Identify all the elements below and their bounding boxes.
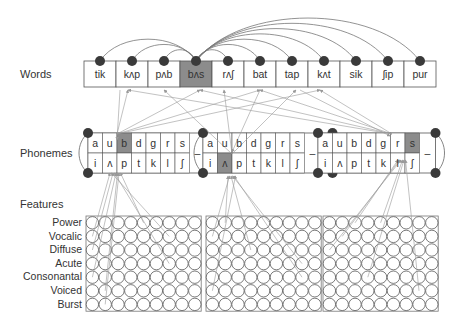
word-1: kʌp <box>116 68 148 80</box>
feature-unit <box>336 285 348 297</box>
feature-unit <box>245 285 257 297</box>
feature-unit <box>362 298 374 310</box>
phoneme-0-bottom-2: p <box>117 157 132 169</box>
feature-unit <box>323 285 335 297</box>
phoneme-2-top-5: r <box>391 137 406 149</box>
feature-unit <box>426 230 438 242</box>
feature-unit <box>137 244 149 256</box>
phoneme-1-bottom-1: ʌ <box>218 157 233 169</box>
word-node <box>223 56 233 66</box>
phoneme-1-bottom-5: l <box>276 157 291 169</box>
feature-unit <box>426 244 438 256</box>
feature-unit <box>336 271 348 283</box>
feature-unit <box>189 257 201 269</box>
feature-unit <box>163 271 175 283</box>
feature-unit <box>323 298 335 310</box>
feature-unit <box>189 217 201 229</box>
feature-unit <box>176 244 188 256</box>
feature-unit <box>387 217 399 229</box>
word-phoneme-link <box>260 90 392 134</box>
word-8: sik <box>340 68 372 80</box>
feature-unit <box>176 298 188 310</box>
word-6: tap <box>276 68 308 80</box>
word-node <box>127 56 137 66</box>
feature-unit <box>163 285 175 297</box>
feature-unit <box>245 271 257 283</box>
feature-unit <box>176 217 188 229</box>
phoneme-1-top-6: s <box>290 137 305 149</box>
feature-unit <box>112 285 124 297</box>
phoneme-node <box>431 168 441 178</box>
feature-unit <box>257 257 269 269</box>
feature-unit <box>112 244 124 256</box>
feature-unit <box>362 244 374 256</box>
phoneme-1-bottom-4: k <box>261 157 276 169</box>
feature-unit <box>257 230 269 242</box>
phoneme-separator: – <box>420 147 436 159</box>
feature-unit <box>336 257 348 269</box>
feature-unit <box>349 244 361 256</box>
feature-unit <box>219 271 231 283</box>
feature-unit <box>112 271 124 283</box>
feature-unit <box>309 217 321 229</box>
feature-unit <box>400 271 412 283</box>
word-node <box>95 56 105 66</box>
feature-unit <box>189 230 201 242</box>
feature-unit <box>270 217 282 229</box>
phoneme-1-top-2: b <box>232 137 247 149</box>
feature-unit <box>323 244 335 256</box>
word-4: rʌʃ <box>212 68 244 80</box>
word-arc <box>196 18 420 61</box>
phoneme-2-bottom-6: ʃ <box>405 157 420 169</box>
feature-unit <box>413 257 425 269</box>
feature-unit <box>296 244 308 256</box>
feature-unit <box>270 271 282 283</box>
phoneme-1-top-3: d <box>247 137 262 149</box>
feature-unit <box>176 271 188 283</box>
word-node <box>415 56 425 66</box>
feature-unit <box>323 257 335 269</box>
feature-unit <box>270 257 282 269</box>
feature-unit <box>163 298 175 310</box>
feature-unit <box>232 271 244 283</box>
feature-unit <box>176 285 188 297</box>
phoneme-1-top-0: a <box>203 137 218 149</box>
feature-unit <box>245 230 257 242</box>
feature-unit <box>283 285 295 297</box>
feature-unit <box>112 298 124 310</box>
phoneme-loop <box>436 133 445 173</box>
feature-unit <box>163 244 175 256</box>
feature-unit <box>219 285 231 297</box>
phoneme-0-bottom-3: t <box>132 157 147 169</box>
feature-unit <box>232 285 244 297</box>
phoneme-loop <box>79 133 88 173</box>
phoneme-0-top-3: d <box>132 137 147 149</box>
feature-unit <box>426 298 438 310</box>
feature-unit <box>206 244 218 256</box>
feature-unit <box>323 230 335 242</box>
feature-unit <box>189 244 201 256</box>
phoneme-1-bottom-0: i <box>203 157 218 169</box>
feature-unit <box>296 285 308 297</box>
feature-unit <box>219 298 231 310</box>
feature-unit <box>232 298 244 310</box>
phoneme-1-bottom-3: t <box>247 157 262 169</box>
word-2: pʌb <box>148 68 180 80</box>
feature-unit <box>232 257 244 269</box>
phoneme-0-bottom-5: l <box>161 157 176 169</box>
feature-unit <box>387 298 399 310</box>
feature-unit <box>426 257 438 269</box>
feature-unit <box>413 298 425 310</box>
feature-unit <box>349 257 361 269</box>
phoneme-0-top-0: a <box>88 137 103 149</box>
phoneme-0-bottom-1: ʌ <box>103 157 118 169</box>
feature-unit <box>137 257 149 269</box>
feature-unit <box>137 298 149 310</box>
feature-unit <box>245 217 257 229</box>
phoneme-0-bottom-6: ʃ <box>175 157 190 169</box>
feature-unit <box>219 230 231 242</box>
phoneme-0-top-6: s <box>175 137 190 149</box>
feature-unit <box>349 285 361 297</box>
feature-unit <box>257 298 269 310</box>
feature-unit <box>150 257 162 269</box>
